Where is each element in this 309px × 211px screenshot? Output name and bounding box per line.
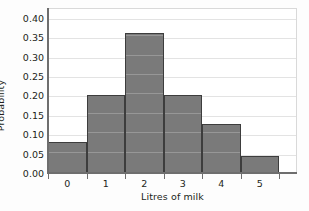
y-tick-label: 0.05 — [23, 148, 44, 159]
bar-gridline — [88, 132, 125, 133]
y-axis-line — [47, 8, 49, 174]
bar-gridline — [165, 93, 202, 94]
x-tick-mark — [164, 174, 165, 179]
x-tick-mark — [241, 174, 242, 179]
x-tick-label: 2 — [141, 178, 147, 189]
bar — [164, 95, 203, 173]
plot-area — [48, 8, 297, 173]
x-tick-label: 1 — [103, 178, 109, 189]
y-tick-label: 0.20 — [23, 90, 44, 101]
bar — [48, 142, 87, 173]
bar-gridline — [126, 152, 163, 153]
bar — [202, 124, 241, 173]
bar-gridline — [88, 93, 125, 94]
bar-gridline — [165, 132, 202, 133]
bar-series — [48, 9, 296, 173]
y-tick-label: 0.25 — [23, 70, 44, 81]
bar-gridline — [203, 152, 240, 153]
bar-gridline — [88, 152, 125, 153]
y-tick-label: 0.40 — [23, 12, 44, 23]
bar-gridline — [126, 132, 163, 133]
y-axis-tick-labels: 0.000.050.100.150.200.250.300.350.40 — [10, 8, 48, 173]
x-tick-mark — [125, 174, 126, 179]
y-tick-label: 0.15 — [23, 109, 44, 120]
bar-gridline — [126, 93, 163, 94]
bar-gridline — [203, 132, 240, 133]
x-tick-mark — [87, 174, 88, 179]
x-tick-label: 4 — [218, 178, 224, 189]
x-axis-title: Litres of milk — [48, 191, 297, 202]
x-tick-label: 0 — [64, 178, 70, 189]
x-tick-label: 5 — [257, 178, 263, 189]
x-axis-tick-labels: 012345 — [48, 174, 297, 188]
bar-gridline — [165, 113, 202, 114]
x-tick-mark — [202, 174, 203, 179]
bar-gridline — [126, 35, 163, 36]
bar-gridline — [126, 74, 163, 75]
y-tick-label: 0.00 — [23, 168, 44, 179]
bar-gridline — [126, 113, 163, 114]
bar-gridline — [165, 152, 202, 153]
y-tick-label: 0.35 — [23, 32, 44, 43]
probability-bar-chart: Probability 0.000.050.100.150.200.250.30… — [0, 0, 309, 211]
bar — [125, 33, 164, 173]
bar-gridline — [126, 55, 163, 56]
x-tick-mark — [279, 174, 280, 179]
bar-gridline — [49, 152, 86, 153]
y-tick-label: 0.30 — [23, 51, 44, 62]
x-tick-label: 3 — [180, 178, 186, 189]
bar — [87, 95, 126, 173]
bar-gridline — [88, 113, 125, 114]
x-tick-mark — [48, 174, 49, 179]
bar — [241, 156, 280, 173]
y-tick-label: 0.10 — [23, 129, 44, 140]
